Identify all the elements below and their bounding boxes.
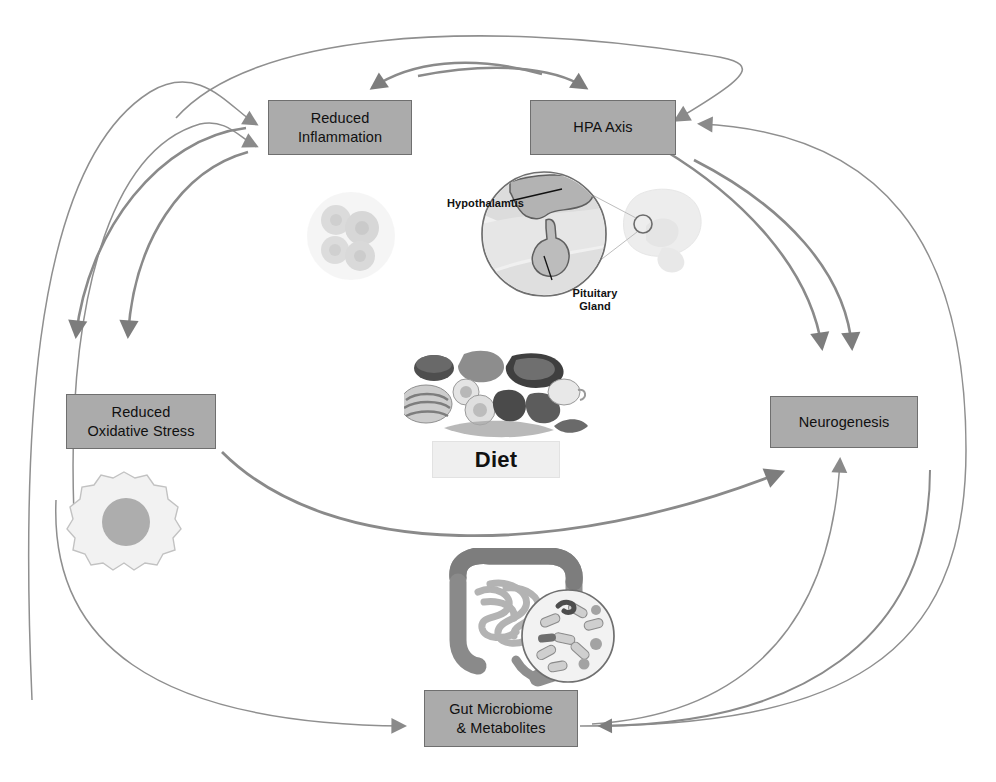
node-hpa-axis[interactable]: HPA Axis <box>530 100 676 155</box>
diet-label: Diet <box>475 447 517 473</box>
pituitary-gland-label: Pituitary Gland <box>560 287 630 313</box>
edge-gut-to-neurogenesis <box>592 460 840 724</box>
edge-neurogenesis-to-gut-microbiome <box>600 470 930 726</box>
node-reduced-oxidative-line2: Oxidative Stress <box>87 422 194 441</box>
node-reduced-oxidative-stress[interactable]: Reduced Oxidative Stress <box>66 394 216 449</box>
edge-top-to-hpa-axis <box>418 68 586 88</box>
brain-hypothalamus-pituitary-illustration <box>440 168 710 303</box>
immune-cell-cluster-icon <box>288 176 414 294</box>
node-reduced-inflammation-line2: Inflammation <box>298 128 382 147</box>
node-reduced-inflammation-line1: Reduced <box>298 109 382 128</box>
figure-canvas: Hypothalamus Pituitary Gland <box>0 0 996 782</box>
node-gut-microbiome-line1: Gut Microbiome <box>449 700 553 719</box>
intestines-bacteria-illustration <box>444 548 626 690</box>
node-reduced-inflammation[interactable]: Reduced Inflammation <box>268 100 412 155</box>
node-hpa-axis-label: HPA Axis <box>573 118 632 137</box>
edge-hpa-to-reduced-inflammation <box>372 63 542 88</box>
assorted-foods-illustration <box>404 348 590 444</box>
node-neurogenesis-label: Neurogenesis <box>799 413 890 432</box>
diet-label-plate: Diet <box>432 441 560 478</box>
hypothalamus-label: Hypothalamus <box>447 197 524 210</box>
edge-gut-to-reduced-inflammation <box>29 82 256 700</box>
single-cell-illustration <box>58 466 190 582</box>
edge-gut-to-reduced-inflammation-2 <box>73 123 256 516</box>
edge-hpa-to-neurogenesis <box>694 160 852 348</box>
pituitary-line-2: Gland <box>579 300 611 312</box>
edge-inflammation-to-oxidative-b <box>128 152 248 336</box>
node-neurogenesis[interactable]: Neurogenesis <box>770 396 918 448</box>
edge-inflammation-to-oxidative-a <box>76 128 246 336</box>
node-reduced-oxidative-line1: Reduced <box>87 403 194 422</box>
node-gut-microbiome[interactable]: Gut Microbiome & Metabolites <box>424 690 578 747</box>
node-gut-microbiome-line2: & Metabolites <box>449 719 553 738</box>
pituitary-line-1: Pituitary <box>573 287 618 299</box>
